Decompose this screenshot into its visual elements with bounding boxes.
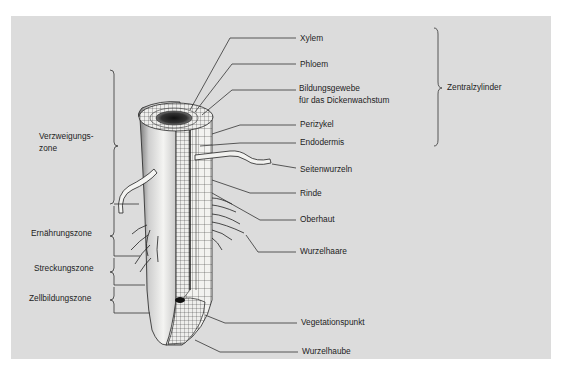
label-verzweigungszone-line2: zone — [39, 143, 57, 154]
label-vegetationspunkt: Vegetationspunkt — [301, 317, 365, 328]
label-ernaehrungszone: Ernährungszone — [31, 228, 92, 239]
label-streckungszone: Streckungszone — [34, 263, 94, 274]
label-wurzelhaare: Wurzelhaare — [300, 246, 347, 257]
root-body — [118, 102, 271, 345]
label-verzweigungszone-line1: Verzweigungs- — [39, 131, 93, 142]
label-bildungsgewebe-line2: für das Dickenwachstum — [299, 95, 389, 106]
label-phloem: Phloem — [300, 59, 328, 70]
label-rinde: Rinde — [300, 188, 322, 199]
label-endodermis: Endodermis — [300, 137, 344, 148]
label-wurzelhaube: Wurzelhaube — [302, 346, 351, 357]
label-seitenwurzeln: Seitenwurzeln — [300, 164, 352, 175]
label-oberhaut: Oberhaut — [300, 214, 335, 225]
label-xylem: Xylem — [300, 33, 323, 44]
root-diagram — [0, 0, 563, 370]
label-perizykel: Perizykel — [300, 119, 334, 130]
label-bildungsgewebe-line1: Bildungsgewebe — [299, 83, 360, 94]
label-zentralzylinder: Zentralzylinder — [447, 82, 501, 93]
label-zellbildungszone: Zellbildungszone — [29, 293, 91, 304]
zentralzylinder-brace — [434, 28, 442, 146]
